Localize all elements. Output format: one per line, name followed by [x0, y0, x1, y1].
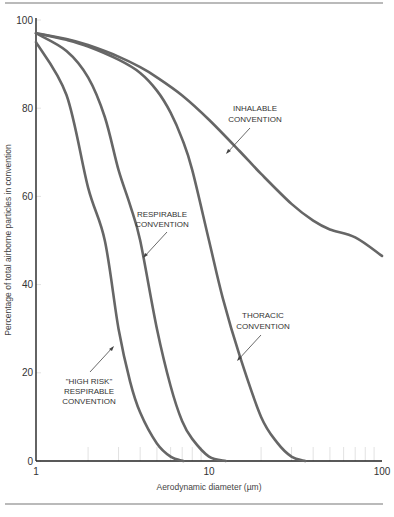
inhalable-curve	[36, 33, 382, 256]
x-tick-label: 100	[374, 466, 391, 477]
x-ticks: 110100	[33, 466, 391, 477]
y-tick-label: 100	[16, 15, 33, 26]
annotation-respirable-arrow	[144, 232, 167, 257]
annotation-inhalable-line1: INHALABLE	[233, 104, 277, 113]
annotation-respirable-line2: CONVENTION	[135, 220, 189, 229]
chart: 020406080100 110100 INHALABLE CONVENTION…	[0, 0, 394, 517]
annotation-high-risk: "HIGH RISK" RESPIRABLE CONVENTION	[62, 346, 116, 406]
annotation-high-risk-line1: "HIGH RISK"	[66, 377, 113, 386]
annotation-thoracic-line1: THORACIC	[242, 311, 284, 320]
annotation-thoracic: THORACIC CONVENTION	[236, 311, 290, 361]
annotation-high-risk-line3: CONVENTION	[62, 397, 116, 406]
annotation-respirable-line1: RESPIRABLE	[137, 210, 187, 219]
y-tick-label: 0	[27, 456, 33, 467]
y-tick-label: 20	[22, 367, 34, 378]
y-ticks: 020406080100	[16, 15, 41, 467]
annotation-inhalable-line2: CONVENTION	[228, 115, 282, 124]
x-tick-label: 1	[33, 466, 39, 477]
x-tick-label: 10	[203, 466, 215, 477]
y-axis-title: Percentage of total airborne particles i…	[3, 144, 13, 336]
x-minor-ticks	[88, 447, 374, 461]
annotation-high-risk-line2: RESPIRABLE	[64, 387, 114, 396]
x-axis-title: Aerodynamic diameter (µm)	[156, 482, 261, 492]
y-tick-label: 60	[22, 191, 34, 202]
y-tick-label: 80	[22, 103, 34, 114]
annotation-high-risk-arrow	[90, 347, 113, 372]
annotation-thoracic-line2: CONVENTION	[236, 322, 290, 331]
y-tick-label: 40	[22, 279, 34, 290]
annotation-thoracic-arrow	[238, 335, 261, 360]
